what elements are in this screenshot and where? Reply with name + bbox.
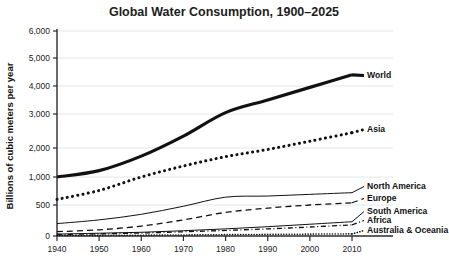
x-tick-label: 2010 (343, 244, 362, 254)
y-tick-label: 5,000 (29, 53, 51, 63)
x-tick-label: 1950 (90, 244, 109, 254)
x-tick-label: 1940 (48, 244, 67, 254)
series-label-north-america: North America (367, 181, 426, 191)
y-axis-label: Billions of cubic meters per year (4, 62, 15, 209)
x-tick-label: 2000 (300, 244, 319, 254)
y-tick-label: 2,000 (29, 143, 51, 153)
y-tick-label: 1,000 (29, 172, 51, 182)
series-label-world: World (367, 70, 391, 80)
series-label-australia-oceania: Australia & Oceania (367, 225, 448, 235)
water-consumption-line-chart: Global Water Consumption, 1900–2025 Bill… (0, 0, 449, 270)
x-tick-label: 1990 (258, 244, 277, 254)
y-tick-label: 500 (36, 200, 50, 210)
x-tick-label: 1970 (174, 244, 193, 254)
series-leader-line (352, 75, 364, 76)
y-tick-label: 6,000 (29, 26, 51, 36)
x-tick-label: 1960 (132, 244, 151, 254)
series-label-africa: Africa (367, 215, 392, 225)
x-tick-label: 1980 (216, 244, 235, 254)
y-tick-label: 4,000 (29, 81, 51, 91)
chart-title: Global Water Consumption, 1900–2025 (109, 5, 339, 19)
y-tick-label: 3,000 (29, 109, 51, 119)
series-label-europe: Europe (367, 193, 397, 203)
y-tick-label: 0 (45, 231, 50, 241)
chart-container: Global Water Consumption, 1900–2025 Bill… (0, 0, 449, 270)
series-label-asia: Asia (367, 124, 385, 134)
